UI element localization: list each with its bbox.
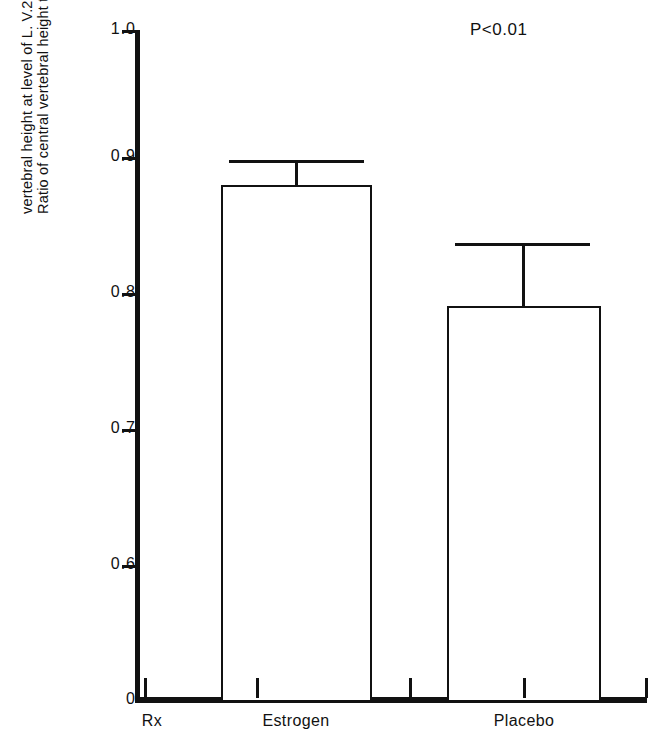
y-axis-line — [135, 30, 140, 702]
chart-figure: P<0.01 Ratio of central vertebral height… — [0, 0, 653, 751]
x-tick-3 — [523, 678, 526, 698]
bar-placebo — [447, 306, 601, 700]
y-tick-label-5: 0.6 — [80, 555, 136, 573]
error-bar-cap-placebo — [455, 243, 590, 246]
x-tick-1 — [256, 678, 259, 698]
x-tick-label-estrogen: Estrogen — [262, 712, 329, 730]
error-bar-cap-estrogen — [229, 160, 364, 163]
error-bar-stem-estrogen — [295, 161, 298, 187]
error-bar-stem-placebo — [522, 244, 525, 308]
x-tick-origin — [144, 678, 147, 698]
x-axis-group-label: Rx — [142, 712, 162, 730]
x-tick-4 — [645, 678, 648, 698]
y-tick-label-4: 0.7 — [80, 419, 136, 437]
plot-area: 1.0 0.9 0.8 0.7 0.6 0 — [0, 0, 653, 751]
y-tick-label-3: 0.8 — [80, 283, 136, 301]
y-tick-label-zero: 0 — [80, 690, 136, 708]
y-tick-label-1: 1.0 — [80, 20, 136, 38]
x-tick-2 — [409, 678, 412, 698]
x-tick-label-placebo: Placebo — [494, 712, 555, 730]
bar-estrogen — [221, 185, 372, 700]
y-tick-label-2: 0.9 — [80, 147, 136, 165]
